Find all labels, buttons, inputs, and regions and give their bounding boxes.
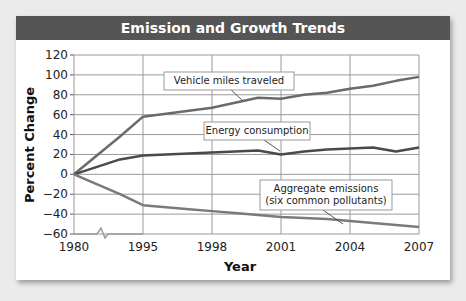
y-tick-label: 120 — [45, 48, 68, 62]
axis-break-icon — [74, 228, 143, 238]
series-line — [74, 147, 419, 174]
x-tick-label: 2004 — [335, 240, 366, 254]
emissions-callout-label: Aggregate emissions — [274, 183, 379, 194]
y-tick-label: 20 — [53, 147, 68, 161]
y-tick-label: 100 — [45, 68, 68, 82]
y-tick-label: 80 — [53, 88, 68, 102]
x-tick-label: 2007 — [404, 240, 435, 254]
vmt-callout-label: Vehicle miles traveled — [174, 75, 284, 86]
y-tick-label: 40 — [53, 128, 68, 142]
y-tick-label: −20 — [43, 187, 68, 201]
y-axis-label: Percent Change — [22, 87, 37, 203]
x-axis-label: Year — [223, 259, 257, 274]
y-tick-label: 60 — [53, 108, 68, 122]
y-tick-label: −40 — [43, 207, 68, 221]
line-chart: 120100806040200−20−40−601980199519982001… — [0, 0, 466, 301]
x-tick-label: 2001 — [266, 240, 297, 254]
x-tick-label: 1998 — [197, 240, 228, 254]
energy-callout-label: Energy consumption — [206, 125, 309, 136]
emissions-callout-leader — [323, 210, 343, 224]
energy-callout-leader — [264, 140, 280, 151]
y-tick-label: −60 — [43, 227, 68, 241]
x-tick-label: 1980 — [59, 240, 90, 254]
y-tick-label: 0 — [60, 167, 68, 181]
x-tick-label: 1995 — [128, 240, 159, 254]
emissions-callout-label: (six common pollutants) — [265, 195, 387, 206]
